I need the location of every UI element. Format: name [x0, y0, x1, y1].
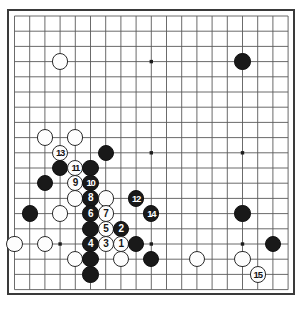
- move-number-label: 13: [56, 148, 64, 158]
- move-stone-4-black: 4: [82, 236, 98, 252]
- move-stone-11-white: 11: [67, 160, 83, 176]
- stone-black: [128, 236, 144, 252]
- move-stone-5-white: 5: [98, 221, 114, 237]
- stone-white: [37, 129, 53, 145]
- move-stone-10-black: 10: [82, 175, 98, 191]
- stone-black: [82, 251, 98, 267]
- move-stone-7-white: 7: [98, 205, 114, 221]
- stone-black: [22, 205, 38, 221]
- move-stone-14-black: 14: [143, 205, 159, 221]
- stone-white: [67, 251, 83, 267]
- stone-black: [52, 160, 68, 176]
- move-stone-1-white: 1: [113, 236, 129, 252]
- stone-black: [265, 236, 281, 252]
- move-stone-6-black: 6: [82, 205, 98, 221]
- move-stone-8-black: 8: [82, 190, 98, 206]
- stone-white: [52, 205, 68, 221]
- stone-black: [143, 251, 159, 267]
- move-number-label: 14: [147, 208, 155, 218]
- move-number-label: 6: [88, 208, 93, 218]
- stone-black: [234, 53, 250, 69]
- move-stone-2-black: 2: [113, 221, 129, 237]
- move-number-label: 11: [71, 163, 79, 173]
- move-number-label: 15: [254, 269, 262, 279]
- stone-white: [52, 53, 68, 69]
- stone-black: [37, 175, 53, 191]
- go-board-diagram: 131191081267145243115: [0, 0, 301, 310]
- stone-white: [37, 236, 53, 252]
- stone-black: [82, 266, 98, 282]
- move-stone-12-black: 12: [128, 190, 144, 206]
- move-number-label: 5: [103, 223, 108, 233]
- stone-white: [113, 251, 129, 267]
- stone-white: [6, 236, 22, 252]
- stone-white: [98, 190, 114, 206]
- move-number-label: 1: [118, 238, 123, 248]
- move-stone-15-white: 15: [250, 266, 266, 282]
- move-number-label: 9: [73, 178, 78, 188]
- stone-black: [234, 205, 250, 221]
- move-number-label: 4: [88, 238, 93, 248]
- stone-black: [98, 145, 114, 161]
- move-stone-3-white: 3: [98, 236, 114, 252]
- move-number-label: 2: [118, 223, 123, 233]
- move-number-label: 8: [88, 193, 93, 203]
- move-stone-9-white: 9: [67, 175, 83, 191]
- stone-black: [82, 160, 98, 176]
- move-number-label: 7: [103, 208, 108, 218]
- stone-layer: 131191081267145243115: [0, 0, 301, 310]
- stone-white: [67, 129, 83, 145]
- stone-white: [189, 251, 205, 267]
- move-number-label: 3: [103, 238, 108, 248]
- stone-black: [82, 221, 98, 237]
- stone-white: [234, 251, 250, 267]
- move-number-label: 10: [86, 178, 94, 188]
- stone-white: [67, 190, 83, 206]
- move-stone-13-white: 13: [52, 145, 68, 161]
- move-number-label: 12: [132, 193, 140, 203]
